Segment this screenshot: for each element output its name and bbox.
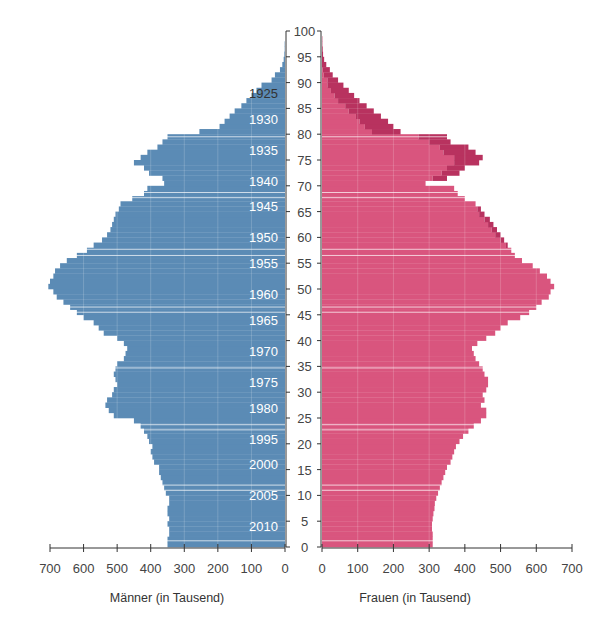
female-bar — [322, 93, 335, 98]
male-bar — [168, 506, 286, 511]
left-x-tick-label: 600 — [73, 561, 95, 576]
birth-year-label: 1925 — [249, 86, 278, 101]
male-bar — [134, 418, 285, 423]
female-surplus-bar — [324, 72, 333, 77]
female-bar — [322, 212, 479, 217]
female-bar — [322, 356, 476, 361]
female-bar — [322, 206, 477, 211]
female-bar — [322, 532, 433, 537]
birth-year-label: 1930 — [249, 112, 278, 127]
female-bar — [322, 88, 331, 93]
right-x-tick-label: 0 — [318, 561, 325, 576]
y-tick-label: 55 — [297, 256, 311, 271]
female-bar — [322, 423, 474, 428]
right-x-tick-label: 200 — [383, 561, 405, 576]
female-bars — [322, 36, 554, 547]
female-bar — [322, 537, 433, 542]
male-bar — [117, 361, 285, 366]
female-surplus-bar — [322, 52, 323, 57]
male-bar — [284, 52, 285, 57]
female-bar — [322, 124, 365, 129]
female-bar — [322, 263, 533, 268]
male-bar — [162, 480, 285, 485]
female-surplus-bar — [323, 67, 330, 72]
female-bar — [322, 83, 327, 88]
female-bar — [322, 382, 488, 387]
female-bar — [322, 248, 511, 253]
right-x-tick-label: 300 — [418, 561, 440, 576]
female-bar — [322, 191, 458, 196]
male-bar — [134, 160, 285, 165]
male-bar — [280, 67, 285, 72]
y-tick-label: 5 — [301, 514, 308, 529]
female-bar — [322, 377, 488, 382]
female-bar — [322, 72, 324, 77]
female-surplus-bar — [492, 227, 497, 232]
birth-year-label: 1945 — [249, 199, 278, 214]
male-bar — [53, 274, 285, 279]
female-bar — [322, 454, 452, 459]
female-bar — [322, 222, 488, 227]
female-bar — [322, 403, 481, 408]
birth-year-label: 1955 — [249, 256, 278, 271]
female-bar — [322, 160, 454, 165]
female-bar — [322, 330, 495, 335]
female-bar — [322, 139, 429, 144]
female-surplus-bar — [443, 150, 475, 155]
y-tick-label: 65 — [297, 205, 311, 220]
right-x-tick-label: 100 — [347, 561, 369, 576]
female-bar — [322, 439, 460, 444]
male-bar — [199, 129, 285, 134]
male-bar — [284, 57, 285, 62]
y-tick-label: 15 — [297, 463, 311, 478]
female-bar — [322, 341, 477, 346]
female-bar — [322, 237, 501, 242]
female-bar — [322, 490, 438, 495]
birth-year-label: 2000 — [249, 457, 278, 472]
female-bar — [322, 475, 443, 480]
male-bar — [168, 542, 286, 547]
female-surplus-bar — [365, 124, 394, 129]
female-bar — [322, 114, 356, 119]
birth-year-label: 1960 — [249, 287, 278, 302]
male-bar — [275, 72, 285, 77]
left-x-tick-label: 200 — [207, 561, 229, 576]
female-bar — [322, 361, 479, 366]
male-bar — [87, 248, 285, 253]
female-bar — [322, 227, 492, 232]
right-x-tick-label: 500 — [490, 561, 512, 576]
female-surplus-bar — [477, 206, 481, 211]
female-bar — [322, 346, 472, 351]
female-bar — [322, 98, 338, 103]
female-bar — [322, 289, 551, 294]
male-bar — [115, 366, 285, 371]
female-surplus-bar — [429, 139, 450, 144]
female-bar — [322, 506, 435, 511]
female-bar — [322, 372, 485, 377]
y-tick-label: 80 — [297, 127, 311, 142]
male-bar — [272, 77, 285, 82]
female-surplus-bar — [327, 77, 338, 82]
birth-year-label: 1975 — [249, 375, 278, 390]
female-bar — [322, 480, 442, 485]
y-tick-label: 10 — [297, 488, 311, 503]
y-tick-label: 30 — [297, 385, 311, 400]
female-bar — [322, 521, 432, 526]
female-surplus-bar — [360, 119, 389, 124]
male-bar — [112, 392, 285, 397]
birth-year-label: 1965 — [249, 313, 278, 328]
female-bar — [322, 274, 547, 279]
female-surplus-bar — [322, 46, 323, 51]
male-bar — [114, 217, 285, 222]
male-bar — [112, 222, 285, 227]
left-x-tick-label: 0 — [281, 561, 288, 576]
female-surplus-bar — [501, 237, 505, 242]
birth-year-label: 2010 — [249, 519, 278, 534]
female-bar — [322, 145, 440, 150]
female-bar — [322, 67, 323, 72]
female-surplus-bar — [345, 103, 366, 108]
female-bar — [322, 108, 349, 113]
female-surplus-bar — [356, 114, 381, 119]
female-surplus-bar — [506, 243, 508, 248]
right-x-tick-label: 600 — [525, 561, 547, 576]
